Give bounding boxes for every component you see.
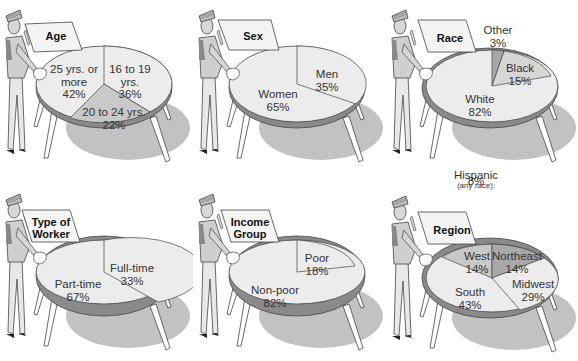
chart-panel-race: Race Other 3% Black 15% White 82% Hispan… (386, 0, 578, 180)
slice-label-full-time: Full-time 33% (106, 262, 158, 287)
slice-label-other: Other 3% (478, 24, 518, 49)
chart-title: Age (36, 30, 76, 42)
slice-label-south: South 43% (450, 286, 490, 311)
slice-label-part-time: Part-time 67% (50, 278, 106, 303)
slice-label-25-plus: 25 yrs. or more 42% (44, 63, 104, 101)
chart-panel-region: Region West 14% Northeast 14% Midwest 29… (386, 180, 578, 360)
slice-label-women: Women 65% (253, 88, 303, 113)
slice-label-men: Men 35% (305, 68, 349, 93)
slice-label-black: Black 15% (500, 62, 540, 87)
slice-label-midwest: Midwest 29% (508, 278, 558, 303)
chart-title: Income Group (225, 216, 275, 240)
chart-panel-sex: Sex Men 35% Women 65% (193, 0, 386, 180)
chart-title: Type of Worker (26, 216, 76, 240)
slice-label-northeast: Northeast 14% (492, 250, 542, 275)
slice-label-20-24: 20 to 24 yrs. 22% (74, 106, 154, 131)
slice-label-poor: Poor 18% (297, 252, 337, 277)
slice-label-16-19: 16 to 19 yrs. 36% (104, 63, 156, 101)
slice-label-west: West 14% (462, 250, 492, 275)
slice-label-non-poor: Non-poor 82% (245, 284, 305, 309)
chart-panel-worker: Type of Worker Full-time 33% Part-time 6… (0, 180, 193, 360)
chart-title: Region (430, 224, 474, 236)
chart-panel-income: Income Group Poor 18% Non-poor 82% (193, 180, 386, 360)
chart-title: Sex (233, 30, 273, 42)
chart-title: Race (430, 32, 470, 44)
slice-label-white: White 82% (458, 93, 502, 118)
chart-panel-age: Age 16 to 19 yrs. 36% 20 to 24 yrs. 22% … (0, 0, 193, 180)
